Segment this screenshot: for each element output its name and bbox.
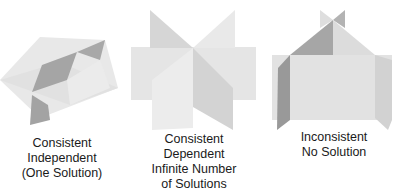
plane-right-wall xyxy=(375,55,392,130)
plane-roof-right xyxy=(333,20,375,55)
caption-line: (One Solution) xyxy=(0,166,132,181)
caption-line: Infinite Number xyxy=(124,162,264,177)
caption-consistent-dependent: Consistent Dependent Infinite Number of … xyxy=(124,132,264,190)
caption-line: Inconsistent xyxy=(264,130,404,145)
panel-infinite-solutions-illustration xyxy=(131,10,256,130)
caption-inconsistent: Inconsistent No Solution xyxy=(264,130,404,160)
plane-roof-left-dark xyxy=(290,20,333,55)
plane-upper-right xyxy=(193,10,235,48)
planes-figure xyxy=(0,0,406,135)
panel-one-solution-illustration xyxy=(0,37,118,125)
plane-upper-left xyxy=(150,10,193,48)
caption-line: Independent xyxy=(0,151,132,166)
panel-no-solution-illustration xyxy=(272,10,392,130)
caption-line: Consistent xyxy=(0,136,132,151)
caption-line: No Solution xyxy=(264,145,404,160)
caption-line: Consistent xyxy=(124,132,264,147)
caption-consistent-independent: Consistent Independent (One Solution) xyxy=(0,136,132,181)
caption-line: Dependent xyxy=(124,147,264,162)
caption-line: of Solutions xyxy=(124,177,264,190)
